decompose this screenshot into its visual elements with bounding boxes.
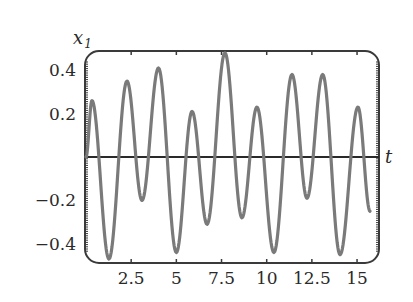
x-tick-labels: 2.557.51012.515 [118,268,368,288]
x1-curve [86,53,370,259]
y-axis-label: x1 [73,27,92,51]
x-axis-label: t [385,146,393,167]
y-tick-label: −0.2 [35,190,76,210]
x-tick-label: 7.5 [208,268,235,288]
y-tick-label: 0.4 [49,60,76,80]
x-tick-label: 5 [171,268,182,288]
x-tick-label: 2.5 [118,268,145,288]
y-tick-label: −0.4 [35,234,76,254]
x-tick-label: 10 [256,268,278,288]
y-tick-labels: 0.40.2−0.2−0.4 [35,60,76,254]
x-tick-label: 15 [346,268,368,288]
y-tick-label: 0.2 [49,104,76,124]
x-tick-label: 12.5 [293,268,331,288]
chart: x1 t 2.557.51012.515 0.40.2−0.2−0.4 [0,0,413,302]
